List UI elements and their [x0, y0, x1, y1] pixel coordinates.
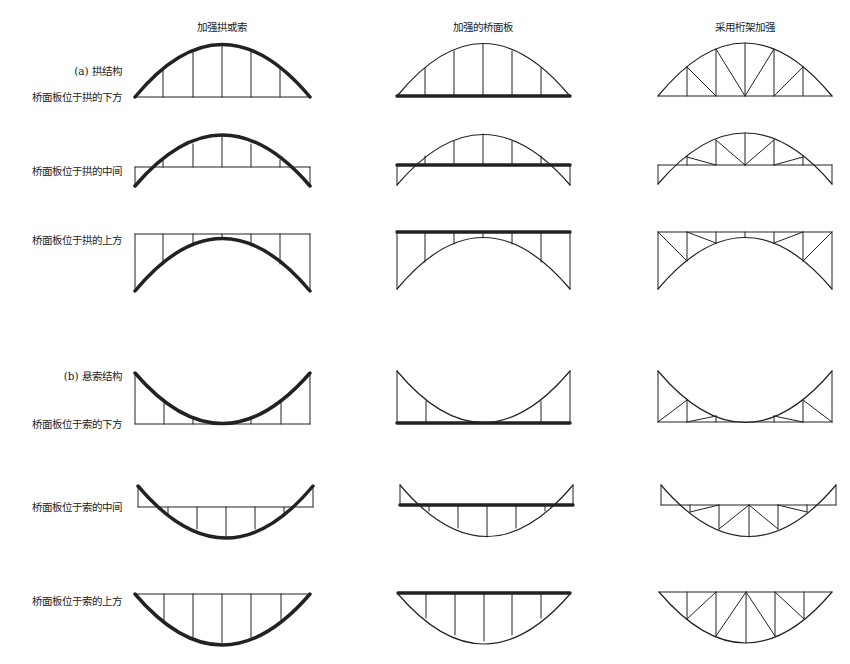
- cable-above-truss: [659, 592, 832, 643]
- arch-mid-truss: [658, 133, 832, 184]
- arch-below-stiffened-arch: [135, 45, 310, 98]
- bridge-diagrams: [0, 0, 850, 664]
- arch-below-stiffened-deck: [397, 44, 570, 97]
- cable-above-stiffened-cable: [135, 594, 310, 645]
- cable-below-stiffened-cable: [135, 373, 310, 424]
- cable-above-stiffened-deck: [398, 593, 570, 644]
- arch-above-stiffened-deck: [397, 232, 570, 289]
- arch-above-truss: [658, 232, 832, 289]
- arch-mid-stiffened-deck: [397, 134, 570, 185]
- arch-mid-stiffened-arch: [135, 135, 310, 186]
- cable-mid-stiffened-deck: [400, 485, 573, 537]
- arch-above-stiffened-arch: [135, 234, 310, 291]
- cable-mid-stiffened-cable: [138, 486, 313, 538]
- cable-below-stiffened-deck: [397, 371, 570, 423]
- arch-below-truss: [658, 43, 832, 96]
- cable-mid-truss: [661, 485, 836, 537]
- cable-below-truss: [658, 371, 832, 423]
